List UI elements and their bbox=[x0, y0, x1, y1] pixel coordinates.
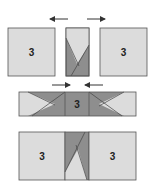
row3-right-label: 3 bbox=[110, 151, 116, 162]
row1-center-strip bbox=[66, 28, 89, 76]
assembly-diagram: 3 3 3 3 3 bbox=[0, 0, 158, 187]
row3-left-label: 3 bbox=[39, 151, 45, 162]
row1-left-label: 3 bbox=[29, 47, 35, 58]
row1-right-label: 3 bbox=[121, 47, 127, 58]
row2-strip: 3 bbox=[19, 92, 136, 116]
row1-left-square: 3 bbox=[8, 28, 55, 76]
row2-center-label: 3 bbox=[74, 99, 80, 110]
row3-block: 3 3 bbox=[19, 132, 136, 180]
row1-right-square: 3 bbox=[100, 28, 147, 76]
